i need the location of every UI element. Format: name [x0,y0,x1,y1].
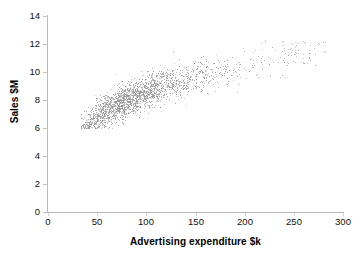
scatter-points-canvas [48,16,343,212]
y-tick-label: 4 [14,151,40,161]
scatter-chart: 02468101214 050100150200250300 Advertisi… [0,0,359,260]
y-tick-label: 2 [14,179,40,189]
x-tick-label: 150 [176,217,216,227]
plot-area [48,16,343,212]
x-tick-label: 50 [77,217,117,227]
x-tick-label: 300 [323,217,359,227]
x-tick-label: 250 [274,217,314,227]
y-tick-label: 14 [14,11,40,21]
y-tick-label: 12 [14,39,40,49]
x-axis-title: Advertising expenditure $k [48,236,343,247]
x-tick-label: 0 [28,217,68,227]
x-tick-label: 100 [126,217,166,227]
y-tick-label: 0 [14,207,40,217]
x-tick-label: 200 [225,217,265,227]
y-axis-title: Sales $M [9,62,20,142]
